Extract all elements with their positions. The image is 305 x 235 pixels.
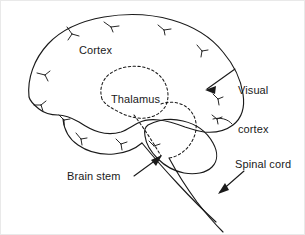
brain-diagram: Cortex Thalamus Visual cortex Brain stem… — [0, 0, 305, 235]
thalamus-outline — [101, 66, 196, 158]
spinal-cord-callout — [218, 171, 244, 194]
spinal-cord-arrowhead — [218, 183, 229, 194]
label-cortex: Cortex — [79, 44, 112, 57]
brain-stem-outline — [142, 143, 223, 232]
visual-cortex-arrowhead — [205, 86, 216, 94]
label-visual-cortex-line2: cortex — [238, 123, 269, 136]
cerebellum-outline — [145, 118, 232, 174]
visual-cortex-callout — [205, 69, 235, 94]
label-brain-stem: Brain stem — [67, 170, 121, 183]
label-visual-cortex-line1: Visual — [238, 84, 269, 97]
label-visual-cortex: Visual cortex — [238, 58, 269, 162]
brain-stem-callout — [134, 155, 162, 176]
cortex-sulci-marks — [34, 22, 223, 125]
cortex-outline — [29, 15, 244, 134]
label-spinal-cord: Spinal cord — [235, 158, 291, 171]
label-thalamus: Thalamus — [111, 93, 160, 106]
